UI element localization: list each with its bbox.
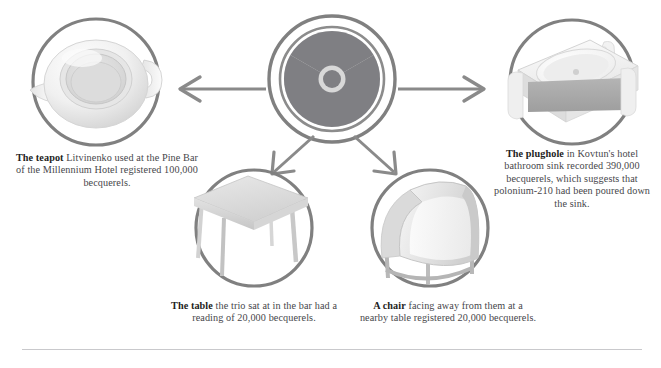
caption-teapot: The teapot Litvinenko used at the Pine B… (14, 152, 200, 189)
caption-table-body: the trio sat at in the bar had a reading… (192, 300, 337, 323)
radiation-trefoil-icon (284, 13, 398, 132)
radiation-symbol-node (265, 12, 399, 146)
caption-table: The table the trio sat at in the bar had… (166, 300, 342, 325)
plug-drain (573, 69, 579, 75)
chair-node (366, 162, 496, 292)
footer-rule (22, 349, 642, 350)
caption-teapot-lead: The teapot (16, 152, 64, 163)
caption-chair-lead: A chair (373, 300, 406, 311)
teapot-icon (30, 40, 162, 128)
chair-icon (381, 182, 479, 284)
caption-plughole: The plughole in Kovtun's hotel bathroom … (492, 148, 652, 210)
sink-plughole-icon (508, 40, 638, 122)
arrow-to-plughole (396, 72, 492, 106)
caption-table-lead: The table (171, 300, 213, 311)
caption-chair: A chair facing away from them at a nearb… (358, 300, 538, 325)
caption-plughole-lead: The plughole (506, 148, 564, 159)
infographic-canvas: The teapot Litvinenko used at the Pine B… (0, 0, 661, 368)
table-icon (194, 176, 308, 276)
arrow-to-teapot (172, 72, 268, 106)
teapot-node (16, 12, 176, 152)
plughole-node (492, 12, 652, 152)
table-node (192, 162, 322, 292)
